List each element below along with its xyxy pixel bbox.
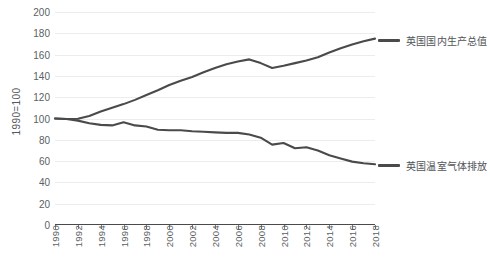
y-axis-tick-label: 80 bbox=[39, 134, 50, 145]
x-axis-tick-label: 1996 bbox=[119, 225, 130, 247]
y-axis-tick-label: 100 bbox=[33, 113, 50, 124]
legend-label: 英国国内生产总值 bbox=[406, 33, 488, 48]
x-axis-tick-label: 2016 bbox=[347, 225, 358, 247]
y-axis-tick-label: 40 bbox=[39, 177, 50, 188]
y-axis-tick-label: 20 bbox=[39, 198, 50, 209]
x-axis-tick-label: 1998 bbox=[141, 225, 152, 247]
chart-legend: 英国国内生产总值英国温室气体排放 bbox=[378, 0, 490, 273]
plot-area bbox=[55, 12, 375, 225]
y-axis-tick-label: 200 bbox=[33, 7, 50, 18]
y-axis-tick-label: 120 bbox=[33, 92, 50, 103]
legend-color-swatch bbox=[378, 164, 400, 167]
series-line bbox=[55, 119, 375, 165]
x-axis-tick-label: 2012 bbox=[301, 225, 312, 247]
legend-label: 英国温室气体排放 bbox=[406, 158, 488, 173]
y-axis-tick-labels: 200180160140120100806040200 bbox=[18, 0, 50, 273]
y-axis-tick-label: 160 bbox=[33, 49, 50, 60]
x-axis-tick-label: 2002 bbox=[187, 225, 198, 247]
y-axis-tick-label: 60 bbox=[39, 156, 50, 167]
x-axis-tick-label: 2006 bbox=[233, 225, 244, 247]
line-chart: 1990=100 200180160140120100806040200 199… bbox=[0, 0, 490, 273]
x-axis-tick-label: 1994 bbox=[96, 225, 107, 247]
legend-item[interactable]: 英国国内生产总值 bbox=[378, 33, 488, 48]
y-axis-tick-label: 180 bbox=[33, 28, 50, 39]
x-axis-tick-label: 2008 bbox=[256, 225, 267, 247]
x-axis-tick-label: 2004 bbox=[210, 225, 221, 247]
legend-color-swatch bbox=[378, 39, 400, 42]
x-axis-tick-label: 1992 bbox=[73, 225, 84, 247]
x-axis-tick-label: 2014 bbox=[324, 225, 335, 247]
y-axis-tick-label: 140 bbox=[33, 70, 50, 81]
legend-item[interactable]: 英国温室气体排放 bbox=[378, 158, 488, 173]
x-axis-tick-labels: 1990199219941996199820002002200420062008… bbox=[55, 225, 375, 273]
x-axis-tick-label: 1990 bbox=[50, 225, 61, 247]
x-axis-tick-label: 2000 bbox=[164, 225, 175, 247]
x-axis-tick-label: 2010 bbox=[279, 225, 290, 247]
series-line bbox=[55, 39, 375, 119]
series-lines bbox=[55, 12, 375, 225]
